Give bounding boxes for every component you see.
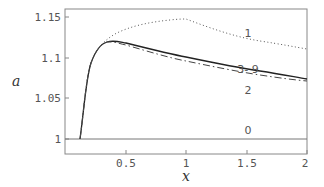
curves bbox=[65, 19, 307, 139]
y-tick-label: 1.05 bbox=[35, 92, 62, 105]
x-tick-label: 2 bbox=[302, 157, 309, 170]
curve-3-9 bbox=[80, 41, 307, 139]
x-axis: 0.5 1 1.5 2 x bbox=[116, 150, 308, 184]
x-tick-label: 0.5 bbox=[116, 157, 136, 170]
chart: 1 1.05 1.1 1.15 a 0.5 1 1.5 2 x 1 3- 9 2… bbox=[0, 0, 324, 187]
x-axis-label: x bbox=[182, 168, 190, 184]
curve-2 bbox=[80, 42, 307, 139]
curve-label-2: 2 bbox=[245, 84, 252, 97]
curve-label-1: 1 bbox=[245, 27, 252, 40]
curve-label-3-9: 3- 9 bbox=[237, 63, 258, 76]
y-axis-label: a bbox=[12, 73, 20, 89]
y-tick-label: 1.15 bbox=[35, 11, 62, 24]
curve-label-0: 0 bbox=[245, 124, 252, 137]
y-tick-label: 1.1 bbox=[41, 52, 61, 65]
y-axis: 1 1.05 1.1 1.15 a bbox=[12, 11, 69, 146]
plot-frame bbox=[65, 9, 307, 154]
curve-1 bbox=[80, 19, 307, 139]
y-tick-label: 1 bbox=[54, 133, 61, 146]
x-tick-label: 1.5 bbox=[237, 157, 257, 170]
